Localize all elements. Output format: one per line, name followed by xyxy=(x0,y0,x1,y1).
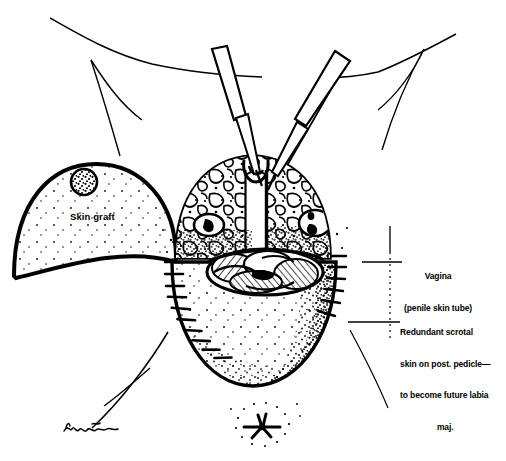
label-redundant-scrotal-skin: Redundant scrotal skin on post. pedicle—… xyxy=(400,306,490,453)
oval-structure-left xyxy=(194,214,224,236)
label-redundant-line-1: Redundant scrotal xyxy=(400,327,490,338)
neovaginal-opening xyxy=(207,249,324,295)
label-redundant-line-2: skin on post. pedicle— xyxy=(400,359,490,370)
label-vagina-line-1: Vagina xyxy=(404,271,472,282)
label-redundant-line-3: to become future labia xyxy=(400,390,490,401)
graft-marker-circle xyxy=(71,169,97,195)
label-redundant-line-4: maj. xyxy=(400,422,490,433)
label-skin-graft: Skin graft xyxy=(70,212,115,223)
surgical-illustration-figure: Skin graft Vagina (penile skin tube) Red… xyxy=(0,0,506,461)
